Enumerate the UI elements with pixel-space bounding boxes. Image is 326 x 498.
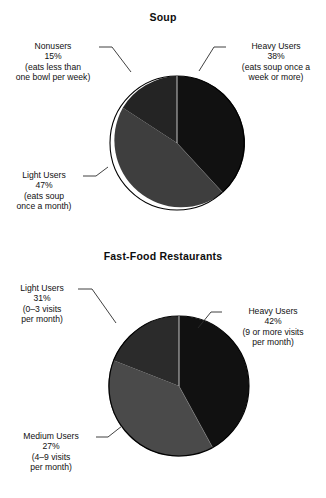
label-soup-nonusers: Nonusers 15% (eats less than one bowl pe… (6, 41, 100, 82)
label-soup-heavy-users: Heavy Users 38% (eats soup once a week o… (228, 41, 324, 82)
label-line: 31% (6, 293, 78, 303)
label-fastfood-medium-users: Medium Users 27% (4–9 visits per month) (6, 431, 96, 472)
label-line: one bowl per week) (6, 72, 100, 82)
label-line: Heavy Users (228, 41, 324, 51)
label-line: per month) (6, 462, 96, 472)
label-line: (eats soup (6, 191, 82, 201)
running-head (0, 0, 326, 8)
label-line: (eats less than (6, 62, 100, 72)
chart-title-line: Restaurants (159, 250, 222, 262)
label-line: 27% (6, 441, 96, 451)
label-line: 42% (224, 316, 322, 326)
pie-svg-soup (109, 75, 245, 211)
label-line: Light Users (6, 170, 82, 180)
pie-chart-soup (109, 75, 245, 211)
page-canvas: Soup Nonusers 15% (eats less than one bo… (0, 0, 326, 498)
label-line: per month) (224, 337, 322, 347)
label-line: (9 or more visits (224, 327, 322, 337)
label-soup-light-users: Light Users 47% (eats soup once a month) (6, 170, 82, 211)
label-line: once a month) (6, 201, 82, 211)
label-line: 38% (228, 51, 324, 61)
label-line: Light Users (6, 283, 78, 293)
label-line: 47% (6, 180, 82, 190)
label-line: (eats soup once a (228, 62, 324, 72)
chart-title-fastfood: Fast-Food Restaurants (0, 250, 326, 262)
chart-title-soup: Soup (0, 11, 326, 23)
label-line: Nonusers (6, 41, 100, 51)
label-line: Heavy Users (224, 306, 322, 316)
label-line: per month) (6, 314, 78, 324)
label-line: 15% (6, 51, 100, 61)
label-line: Medium Users (6, 431, 96, 441)
label-fastfood-heavy-users: Heavy Users 42% (9 or more visits per mo… (224, 306, 322, 347)
label-line: (0–3 visits (6, 304, 78, 314)
label-line: (4–9 visits (6, 452, 96, 462)
chart-title-line: Fast-Food (104, 250, 157, 262)
label-line: week or more) (228, 72, 324, 82)
label-fastfood-light-users: Light Users 31% (0–3 visits per month) (6, 283, 78, 324)
